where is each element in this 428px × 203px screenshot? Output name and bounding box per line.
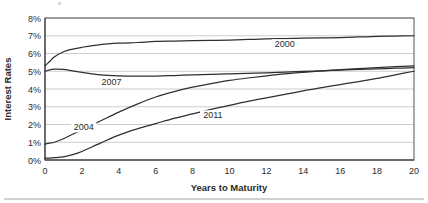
series-label-2004: 2004 bbox=[74, 122, 94, 132]
chart-figure: 8% 7% 6% 5% 4% 3% 2% 1% 0% 0 2 4 6 8 10 … bbox=[0, 0, 428, 203]
x-tick-label: 10 bbox=[224, 166, 234, 176]
y-tick-label: 4% bbox=[28, 85, 41, 95]
x-axis-title: Years to Maturity bbox=[191, 182, 268, 193]
series-label-2011: 2011 bbox=[203, 110, 222, 120]
yield-curve-chart: 8% 7% 6% 5% 4% 3% 2% 1% 0% 0 2 4 6 8 10 … bbox=[0, 0, 428, 203]
x-tick-label: 0 bbox=[42, 166, 47, 176]
data-series-group bbox=[45, 36, 414, 158]
x-tick-label: 16 bbox=[335, 166, 345, 176]
y-tick-label: 8% bbox=[28, 14, 41, 24]
gridlines bbox=[45, 18, 414, 160]
x-tick-label: 18 bbox=[372, 166, 382, 176]
x-tick-label: 6 bbox=[153, 166, 158, 176]
series-line-2000 bbox=[45, 36, 414, 66]
series-label-2007: 2007 bbox=[101, 77, 121, 87]
y-tick-label: 6% bbox=[28, 49, 41, 59]
y-tick-label: 0% bbox=[28, 156, 41, 166]
y-tick-labels: 8% 7% 6% 5% 4% 3% 2% 1% 0% bbox=[28, 14, 41, 166]
y-axis-title: Interest Rates bbox=[2, 58, 13, 121]
x-tick-label: 8 bbox=[190, 166, 195, 176]
y-tick-label: 1% bbox=[28, 138, 41, 148]
scan-artifact bbox=[58, 2, 61, 5]
x-tick-label: 12 bbox=[261, 166, 271, 176]
y-tick-label: 2% bbox=[28, 120, 41, 130]
x-tick-label: 14 bbox=[298, 166, 308, 176]
x-tick-label: 20 bbox=[409, 166, 419, 176]
y-tick-label: 3% bbox=[28, 102, 41, 112]
x-tick-labels: 0 2 4 6 8 10 12 14 16 18 20 bbox=[42, 166, 419, 176]
y-tick-label: 5% bbox=[28, 67, 41, 77]
x-tick-label: 2 bbox=[79, 166, 84, 176]
series-label-2000: 2000 bbox=[275, 39, 295, 49]
x-tick-label: 4 bbox=[116, 166, 121, 176]
y-tick-label: 7% bbox=[28, 31, 41, 41]
